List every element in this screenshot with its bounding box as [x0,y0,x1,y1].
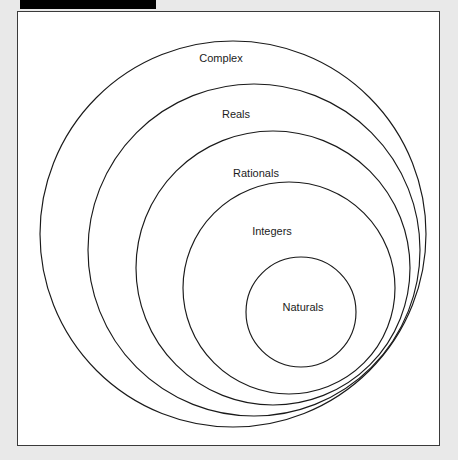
label-reals: Reals [222,108,251,120]
label-naturals: Naturals [283,301,324,313]
diagram-frame: Complex Reals Rationals Integers Natural… [17,11,440,446]
label-rationals: Rationals [233,167,279,179]
label-complex: Complex [199,52,243,64]
number-sets-venn-diagram: Complex Reals Rationals Integers Natural… [18,12,441,447]
circle-complex [40,41,426,427]
circle-reals [88,84,420,416]
circle-integers [183,182,395,394]
label-integers: Integers [252,225,292,237]
redacted-title-bar [20,0,156,9]
